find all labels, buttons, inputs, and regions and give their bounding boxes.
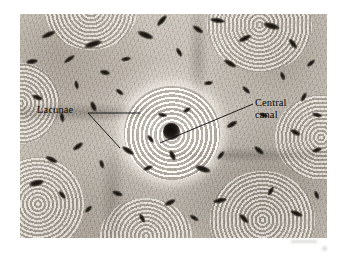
micrograph-plate — [20, 14, 327, 238]
bone-micrograph-figure: Lacunae Central canal — [0, 0, 342, 256]
scan-artifact-bar — [291, 240, 317, 243]
scan-artifact-dot — [322, 246, 327, 251]
film-grain-layer — [20, 14, 327, 238]
label-lacunae: Lacunae — [37, 104, 73, 116]
label-central-canal: Central canal — [255, 97, 287, 120]
